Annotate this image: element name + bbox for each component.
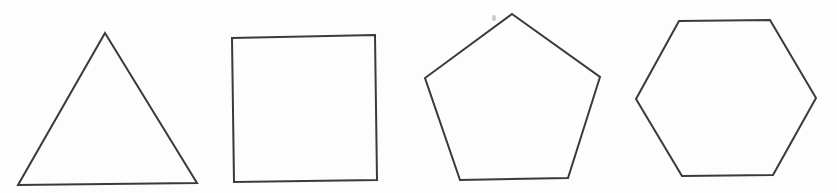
shapes-figure [0, 0, 837, 193]
square-shape [232, 35, 377, 182]
smudge-mark [492, 15, 496, 21]
pentagon-shape [425, 14, 600, 180]
triangle-shape [18, 33, 197, 185]
shapes-svg [0, 0, 837, 193]
hexagon-shape [636, 20, 816, 176]
